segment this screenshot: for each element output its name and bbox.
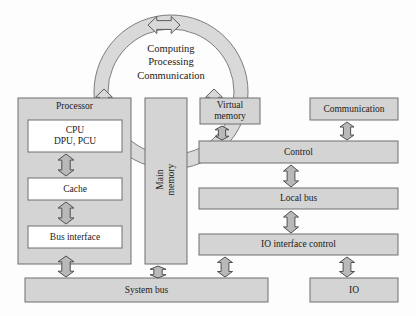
- diagram-graphics: [0, 0, 416, 316]
- bus-interface-box[interactable]: [28, 226, 122, 248]
- cache-box[interactable]: [28, 178, 122, 200]
- communication-box[interactable]: [310, 98, 398, 120]
- arrow-communication-control: [340, 122, 354, 140]
- arrow-control-local-bus: [284, 165, 299, 187]
- io-box[interactable]: [310, 278, 398, 302]
- diagram-canvas: ProcessorCPU DPU, PCUCacheBus interfaceM…: [0, 0, 416, 316]
- cpu-box[interactable]: [28, 120, 122, 152]
- arrow-io-interface-io: [340, 257, 355, 277]
- local-bus-bar[interactable]: [199, 188, 398, 209]
- arrow-main-memory-system-bus: [150, 266, 166, 278]
- arrow-io-interface-system-bus: [218, 257, 233, 277]
- io-interface-control-bar[interactable]: [199, 234, 398, 255]
- system-bus-bar[interactable]: [25, 278, 268, 302]
- arrow-local-bus-io-interface: [284, 211, 299, 233]
- virtual-memory-box[interactable]: [200, 98, 260, 124]
- control-bar[interactable]: [199, 141, 398, 163]
- main-memory-box[interactable]: [145, 98, 187, 264]
